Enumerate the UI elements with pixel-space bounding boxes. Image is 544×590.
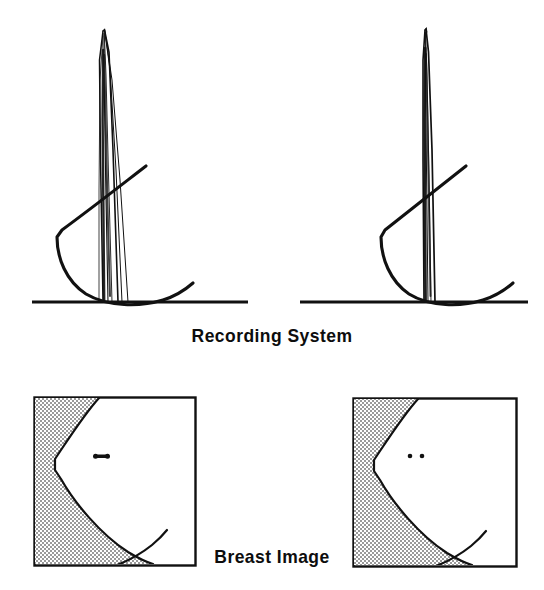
- profile-curve-right: [381, 166, 513, 305]
- panel-breast-image-left: [35, 398, 196, 566]
- figure-root: Recording System Breast Image: [0, 0, 544, 590]
- lesion-marker-left: [93, 454, 110, 459]
- caption-recording-system: Recording System: [22, 325, 522, 347]
- profile-curve-left: [57, 166, 193, 305]
- panel-recording-left: [32, 30, 248, 305]
- panel-recording-right: [300, 29, 528, 305]
- spike-trace-right: [423, 29, 435, 303]
- caption-breast-image: Breast Image: [22, 546, 522, 568]
- figure-canvas: [0, 0, 544, 590]
- panel-breast-image-right: [354, 399, 517, 567]
- spike-trace-left: [99, 30, 128, 303]
